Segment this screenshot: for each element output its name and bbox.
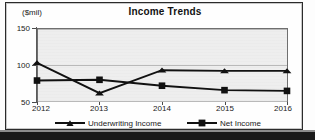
legend-label-net-income: Net Income bbox=[220, 119, 261, 128]
income-trends-chart: ($mil) Income Trends 150 100 50 2012 201… bbox=[0, 0, 315, 132]
datapoint-net-income-2014 bbox=[159, 82, 166, 89]
legend-marker-triangle-icon bbox=[55, 117, 85, 129]
datapoint-net-income-2016 bbox=[284, 88, 291, 95]
scan-dark-band bbox=[0, 132, 315, 140]
datapoint-net-income-2013 bbox=[96, 77, 103, 84]
legend-item-net-income[interactable]: Net Income bbox=[187, 117, 261, 129]
legend-label-underwriting-income: Underwriting Income bbox=[88, 119, 161, 128]
chart-legend: Underwriting Income Net Income bbox=[37, 117, 288, 129]
datapoint-underwriting-income-2012 bbox=[33, 60, 42, 65]
datapoint-net-income-2015 bbox=[221, 87, 228, 94]
series-layer bbox=[0, 0, 315, 132]
datapoint-net-income-2012 bbox=[34, 77, 41, 84]
legend-item-underwriting-income[interactable]: Underwriting Income bbox=[55, 117, 161, 129]
chart-screenshot: ($mil) Income Trends 150 100 50 2012 201… bbox=[0, 0, 315, 140]
legend-marker-square-icon bbox=[187, 117, 217, 129]
